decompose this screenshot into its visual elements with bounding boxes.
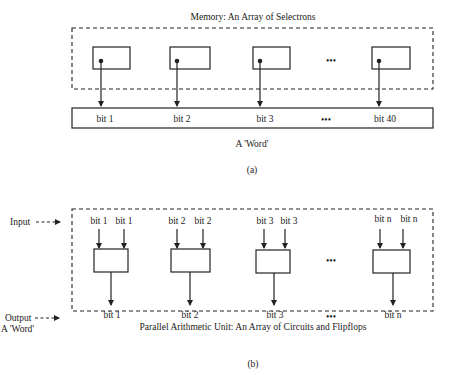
memory-title: Memory: An Array of Selectrons xyxy=(190,12,315,22)
output-label: Output xyxy=(5,313,32,323)
selectron-cell xyxy=(372,47,410,106)
input-bit-label: bit 1 xyxy=(115,216,132,226)
circuit-unit: bit 2 bit 2 bit 2 xyxy=(168,216,211,320)
circuit-box xyxy=(373,250,410,273)
arithmetic-unit-title: Parallel Arithmetic Unit: An Array of Ci… xyxy=(140,322,367,332)
circuit-unit: bit 1 bit 1 bit 1 xyxy=(90,216,132,320)
selectron-cell xyxy=(93,47,130,106)
input-bit-label: bit 2 xyxy=(194,216,211,226)
word-label: A 'Word' xyxy=(235,139,268,149)
input-bit-label: bit 3 xyxy=(280,216,297,226)
ellipsis-icon: ••• xyxy=(326,256,336,266)
output-bit-label: bit 3 xyxy=(266,310,283,320)
circuit-unit: bit n bit n bit n xyxy=(373,214,418,320)
diagram-canvas: Memory: An Array of Selectrons ••• bit 1 xyxy=(0,0,452,375)
output-bit-label: bit n xyxy=(384,310,401,320)
word-bit-label: bit 1 xyxy=(96,114,113,124)
caption-a: (a) xyxy=(247,165,258,176)
input-bit-label: bit 2 xyxy=(168,216,185,226)
output-sublabel: A 'Word' xyxy=(1,324,34,334)
output-bit-label: bit 2 xyxy=(181,310,198,320)
word-bit-label: bit 2 xyxy=(173,114,190,124)
ellipsis-icon: ••• xyxy=(326,312,336,322)
memory-diagram: Memory: An Array of Selectrons ••• bit 1 xyxy=(72,12,433,176)
input-bit-label: bit 3 xyxy=(256,216,273,226)
input-bit-label: bit n xyxy=(374,214,391,224)
input-bit-label: bit 1 xyxy=(90,216,107,226)
caption-b: (b) xyxy=(247,359,258,370)
selectron-cell xyxy=(253,47,290,106)
circuit-unit: bit 3 bit 3 bit 3 xyxy=(256,216,298,320)
ellipsis-icon: ••• xyxy=(321,115,331,125)
word-bit-label: bit 40 xyxy=(374,114,396,124)
circuit-box xyxy=(94,249,128,272)
selectron-cell xyxy=(170,47,210,106)
output-bit-label: bit 1 xyxy=(103,310,120,320)
ellipsis-icon: ••• xyxy=(326,56,336,66)
arithmetic-unit-diagram: Input bit 1 bit 1 bit 1 bit 2 bit 2 bit … xyxy=(1,209,433,370)
circuit-box xyxy=(256,250,290,273)
circuit-box xyxy=(171,249,210,272)
word-bit-label: bit 3 xyxy=(256,114,273,124)
input-label: Input xyxy=(10,217,30,227)
input-bit-label: bit n xyxy=(400,214,417,224)
